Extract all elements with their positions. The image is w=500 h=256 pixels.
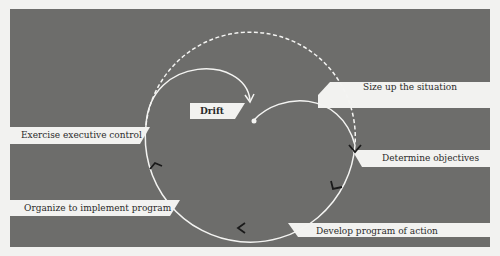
chevron-left-icon — [238, 223, 245, 233]
center-dot — [252, 119, 257, 124]
dashed-arc — [146, 32, 355, 145]
label-develop-program: Develop program of action — [316, 226, 438, 236]
label-determine-objectives: Determine objectives — [382, 153, 479, 163]
chevron-down-left-icon — [331, 181, 342, 189]
label-drift: Drift — [200, 106, 225, 116]
label-organize: Organize to implement program — [24, 203, 172, 213]
label-size-up: Size up the situation — [363, 82, 457, 92]
label-exercise-control: Exercise executive control — [21, 130, 142, 140]
management-cycle-diagram: Drift Size up the situation Determine ob… — [0, 0, 500, 256]
chevron-up-icon — [150, 163, 162, 169]
